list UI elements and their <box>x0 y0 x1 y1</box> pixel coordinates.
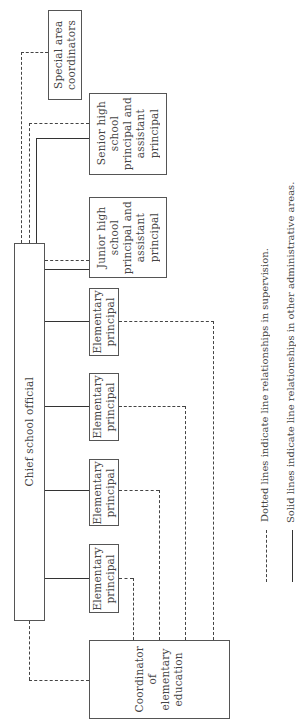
elementary-principal-label-2: Elementary principal <box>91 375 117 439</box>
special-area-coordinators-label: Special area coordinators <box>52 20 78 90</box>
elementary-principal-label-3: Elementary principal <box>91 461 117 525</box>
chief-school-official-label: Chief school official <box>23 377 36 486</box>
connector-chief-junior-solid <box>45 269 89 270</box>
connector-coord-elem2-vertical <box>185 406 186 640</box>
connector-chief-special-horizontal <box>21 52 48 53</box>
connector-chief-senior-solid-horizontal <box>36 138 89 139</box>
elementary-principal-box-4: Elementary principal <box>89 544 119 613</box>
connector-chief-elem3 <box>45 490 89 491</box>
legend-dashed-text: Dotted lines indicate line relationships… <box>259 222 270 522</box>
connector-coord-elem1-horizontal <box>119 321 214 322</box>
connector-chief-special-vertical <box>21 52 22 243</box>
connector-chief-elem1 <box>45 321 89 322</box>
chief-school-official-box: Chief school official <box>14 243 45 621</box>
connector-chief-junior-dashed <box>45 260 89 261</box>
elementary-principal-box-2: Elementary principal <box>89 373 119 441</box>
elementary-principal-label-1: Elementary principal <box>91 290 117 354</box>
senior-high-principal-label: Senior high school principal and assista… <box>95 97 161 170</box>
junior-high-principal-box: Junior high school principal and assista… <box>89 197 167 278</box>
elementary-principal-label-4: Elementary principal <box>91 547 117 611</box>
connector-coord-elem3-vertical <box>159 490 160 640</box>
junior-high-principal-label: Junior high school principal and assista… <box>95 201 161 274</box>
connector-chief-senior-dashed-horizontal <box>29 123 89 124</box>
legend-solid-line-sample <box>292 530 293 582</box>
elementary-principal-box-1: Elementary principal <box>89 288 119 356</box>
connector-coord-elem3-horizontal <box>119 490 159 491</box>
connector-coord-elem1-vertical <box>213 321 214 640</box>
connector-coord-elem2-horizontal <box>119 406 185 407</box>
senior-high-principal-box: Senior high school principal and assista… <box>89 93 167 175</box>
special-area-coordinators-box: Special area coordinators <box>48 10 82 100</box>
coordinator-elementary-education-label: Coordinator of elementary education <box>133 646 186 713</box>
connector-coord-elem4-vertical <box>133 578 134 640</box>
connector-chief-elem2 <box>45 406 89 407</box>
connector-chief-senior-dashed-vertical <box>29 123 30 243</box>
legend-solid-text: Solid lines indicate line relationships … <box>285 163 296 523</box>
connector-chief-coordinator-horizontal <box>29 680 89 681</box>
connector-chief-coordinator-vertical <box>29 621 30 680</box>
connector-chief-senior-solid-vertical <box>36 138 37 243</box>
elementary-principal-box-3: Elementary principal <box>89 459 119 526</box>
connector-chief-elem4 <box>45 578 89 579</box>
coordinator-elementary-education-box: Coordinator of elementary education <box>89 640 230 719</box>
connector-coord-elem4-horizontal <box>119 578 133 579</box>
legend-dashed-line-sample <box>266 530 267 582</box>
